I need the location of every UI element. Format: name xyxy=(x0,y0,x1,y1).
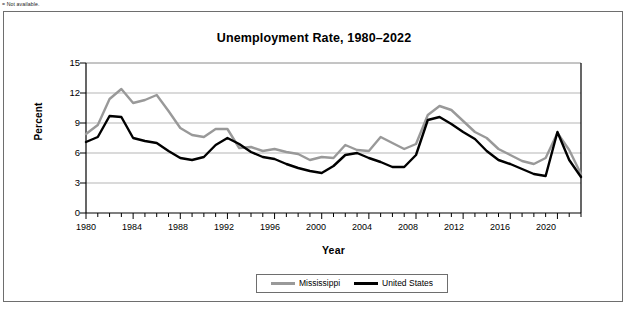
y-axis-ticks xyxy=(80,63,86,213)
footnote-not-available: = Not available. xyxy=(2,1,40,8)
series-line-mississippi xyxy=(86,89,581,174)
chart-frame: Unemployment Rate, 1980–2022 Percent 15 … xyxy=(3,11,623,302)
legend-label-united-states: United States xyxy=(382,279,433,288)
screenshot-root: = Not available. Unemployment Rate, 1980… xyxy=(0,0,631,310)
chart-legend: Mississippi United States xyxy=(256,274,448,293)
series-line-united-states xyxy=(86,116,581,177)
legend-label-mississippi: Mississippi xyxy=(299,279,340,288)
axis-lines xyxy=(86,63,581,213)
legend-swatch-mississippi xyxy=(271,282,295,285)
chart-svg xyxy=(4,12,624,303)
legend-swatch-united-states xyxy=(354,282,378,285)
x-axis-title: Year xyxy=(86,244,581,256)
legend-item-united-states: United States xyxy=(354,279,433,288)
x-axis-ticks xyxy=(86,213,581,219)
legend-item-mississippi: Mississippi xyxy=(271,279,340,288)
plot-area: Percent 15 12 9 6 3 0 1980 1984 1988 199… xyxy=(4,12,624,303)
